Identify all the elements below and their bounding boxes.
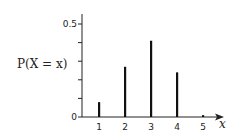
bar-x-5 xyxy=(202,115,204,117)
bars xyxy=(98,41,204,117)
x-tick-label: 5 xyxy=(200,122,206,132)
x-tick-label: 4 xyxy=(174,122,180,132)
bar-x-2 xyxy=(124,67,126,117)
bar-x-1 xyxy=(98,102,100,117)
bar-x-3 xyxy=(150,41,152,117)
y-tick-label: 0.5 xyxy=(63,19,77,29)
x-axis-label: x xyxy=(219,117,226,131)
bar-x-4 xyxy=(176,72,178,117)
x-tick-label: 3 xyxy=(148,122,154,132)
x-tick-label: 2 xyxy=(122,122,128,132)
x-tick-label: 1 xyxy=(96,122,102,132)
y-tick-label: 0 xyxy=(71,112,77,122)
probability-distribution-chart: 00.5 12345 P(X = x) x xyxy=(0,0,239,133)
y-axis-label: P(X = x) xyxy=(17,57,67,71)
